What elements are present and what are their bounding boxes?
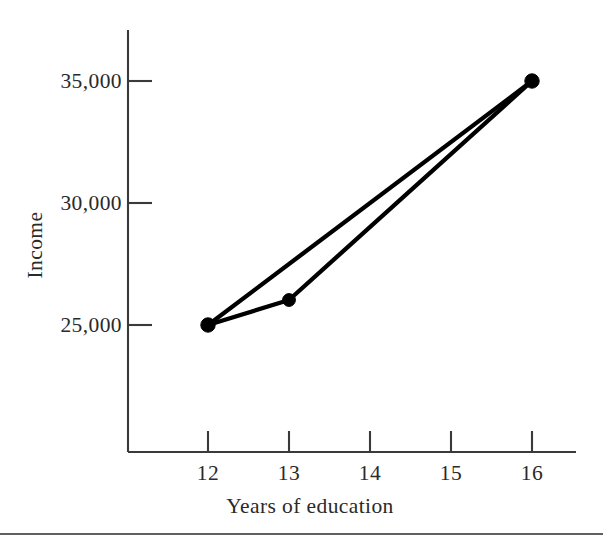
y-tick-label-30000: 30,000	[40, 191, 122, 216]
data-point-marker	[201, 318, 215, 332]
x-tick-label-15: 15	[440, 461, 462, 486]
y-tick-label-25000: 25,000	[40, 313, 122, 338]
data-point-marker	[525, 74, 539, 88]
data-point-marker	[283, 294, 296, 307]
y-tick-label-35000: 35,000	[40, 69, 122, 94]
x-axis-title: Years of education	[226, 494, 393, 519]
y-axis-title: Income	[23, 212, 48, 279]
x-tick-label-16: 16	[521, 461, 543, 486]
x-tick-label-14: 14	[359, 461, 381, 486]
figure-panel: 35,000 30,000 25,000 12 13 14 15 16 Inco…	[0, 0, 603, 547]
series-line-direct	[208, 81, 532, 325]
x-tick-label-13: 13	[278, 461, 300, 486]
x-tick-label-12: 12	[197, 461, 219, 486]
